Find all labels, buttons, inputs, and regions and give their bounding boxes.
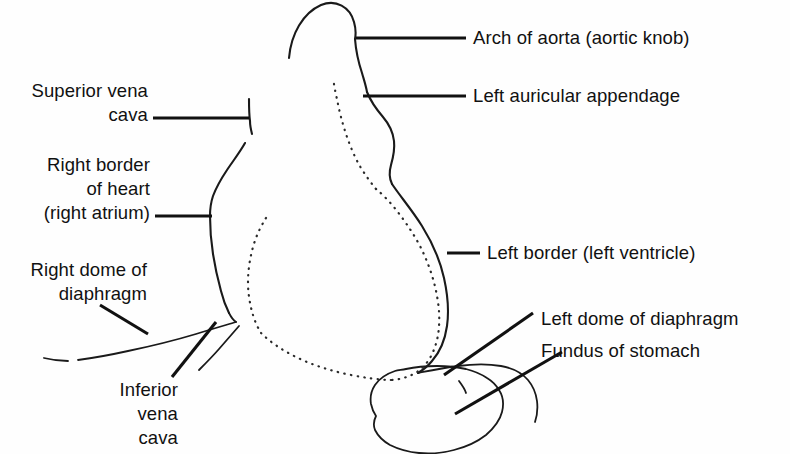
right-atrial-border-outline [210, 143, 245, 313]
leader-inferior-vena-cava [172, 322, 216, 377]
label-arch-of-aorta: Arch of aorta (aortic knob) [473, 26, 690, 50]
inner-contour-right-limb [248, 218, 266, 333]
gastric-bubble-notch [459, 381, 466, 393]
right-hemidiaphragm-lateral-segment [44, 358, 68, 361]
label-fundus-of-stomach: Fundus of stomach [541, 339, 700, 363]
inner-contour-left-limb [376, 189, 439, 380]
label-right-border-of-heart: Right border of heart (right atrium) [0, 153, 150, 225]
cardiac-silhouette-figure: Superior vena cava Right border of heart… [0, 0, 790, 454]
aortic-knob-outline [289, 3, 356, 58]
pulmonary-segment-outline [355, 39, 367, 92]
inner-contour-base [261, 333, 392, 380]
label-inferior-vena-cava: Inferior vena cava [0, 378, 178, 450]
leader-left-dome-of-diaphragm [444, 313, 533, 375]
left-ventricular-border-outline [392, 184, 448, 373]
label-left-auricular-appendage: Left auricular appendage [473, 84, 680, 108]
superior-vena-cava-border [249, 99, 252, 134]
label-left-border: Left border (left ventricle) [487, 241, 695, 265]
left-auricular-appendage-outline [367, 92, 394, 184]
label-right-dome-of-diaphragm: Right dome of diaphragm [0, 258, 147, 306]
right-cardiophrenic-angle [229, 313, 236, 322]
leader-right-dome-of-diaphragm [100, 305, 148, 334]
inferior-vena-cava-shadow [199, 326, 239, 370]
label-superior-vena-cava: Superior vena cava [0, 79, 148, 127]
label-left-dome-of-diaphragm: Left dome of diaphragm [541, 307, 739, 331]
